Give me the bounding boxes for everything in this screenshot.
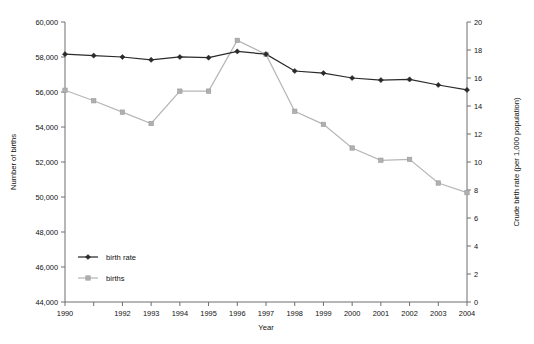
data-point-birth-rate (62, 52, 67, 57)
x-axis-tick-label: 2003 (430, 309, 446, 318)
x-axis-tick-label: 1998 (286, 309, 302, 318)
x-axis-tick-label: 1999 (315, 309, 331, 318)
right-axis-tick-label: 8 (474, 186, 478, 195)
x-axis-tick-label: 2000 (344, 309, 360, 318)
data-point-birth-rate (407, 77, 412, 82)
legend-label: births (106, 274, 125, 283)
left-axis-tick-label: 54,000 (35, 123, 58, 132)
left-axis-tick-label: 50,000 (35, 193, 58, 202)
data-point-births (63, 88, 67, 92)
data-point-birth-rate (120, 54, 125, 59)
data-point-birth-rate (378, 78, 383, 83)
left-axis-tick-label: 58,000 (35, 53, 58, 62)
right-axis-tick-label: 2 (474, 270, 478, 279)
x-axis-title: Year (258, 323, 274, 332)
data-point-births (120, 110, 124, 114)
right-axis-tick-label: 0 (474, 298, 478, 307)
series-line-birth-rate (65, 51, 467, 90)
data-point-births (293, 109, 297, 113)
data-point-births (465, 190, 469, 194)
x-axis-tick-label: 1996 (229, 309, 245, 318)
right-axis-tick-label: 6 (474, 214, 478, 223)
data-point-births (235, 38, 239, 42)
data-point-births (350, 146, 354, 150)
x-axis-tick-label: 1990 (57, 309, 73, 318)
x-axis-tick-label: 1995 (200, 309, 216, 318)
data-point-births (407, 157, 411, 161)
data-point-births (379, 158, 383, 162)
right-axis-tick-label: 10 (474, 158, 482, 167)
data-point-birth-rate (235, 49, 240, 54)
data-point-birth-rate (177, 54, 182, 59)
x-axis-tick-label: 2004 (459, 309, 475, 318)
data-point-birth-rate (91, 53, 96, 58)
x-axis-tick-label: 1992 (114, 309, 130, 318)
left-axis-tick-label: 46,000 (35, 263, 58, 272)
left-axis-tick-label: 52,000 (35, 158, 58, 167)
legend-swatch-marker (85, 254, 90, 259)
x-axis-tick-label: 1993 (143, 309, 159, 318)
left-axis-tick-label: 60,000 (35, 18, 58, 27)
left-axis-tick-label: 44,000 (35, 298, 58, 307)
legend-swatch-marker (86, 276, 90, 280)
right-axis-tick-label: 14 (474, 102, 482, 111)
y2-axis-title: Crude birth rate (per 1,000 population) (512, 97, 521, 227)
right-axis-tick-label: 12 (474, 130, 482, 139)
line-chart: 44,00046,00048,00050,00052,00054,00056,0… (0, 0, 534, 344)
left-axis-tick-label: 56,000 (35, 88, 58, 97)
data-point-birth-rate (464, 87, 469, 92)
data-point-birth-rate (436, 82, 441, 87)
data-point-births (436, 181, 440, 185)
left-axis-tick-label: 48,000 (35, 228, 58, 237)
x-axis-tick-label: 1997 (258, 309, 274, 318)
data-point-birth-rate (292, 68, 297, 73)
y-axis-title: Number of births (9, 134, 18, 190)
data-point-birth-rate (321, 71, 326, 76)
x-axis-tick-label: 1994 (172, 309, 188, 318)
right-axis-tick-label: 18 (474, 46, 482, 55)
right-axis-tick-label: 4 (474, 242, 478, 251)
data-point-births (178, 89, 182, 93)
data-point-births (149, 121, 153, 125)
legend-label: birth rate (106, 253, 136, 262)
data-point-birth-rate (149, 57, 154, 62)
right-axis-tick-label: 16 (474, 74, 482, 83)
data-point-birth-rate (206, 55, 211, 60)
data-point-births (321, 122, 325, 126)
data-point-births (206, 89, 210, 93)
chart-container: 44,00046,00048,00050,00052,00054,00056,0… (0, 0, 534, 344)
right-axis-tick-label: 20 (474, 18, 482, 27)
data-point-births (92, 99, 96, 103)
x-axis-tick-label: 2002 (401, 309, 417, 318)
x-axis-tick-label: 2001 (373, 309, 389, 318)
series-line-births (65, 40, 467, 192)
data-point-birth-rate (350, 75, 355, 80)
